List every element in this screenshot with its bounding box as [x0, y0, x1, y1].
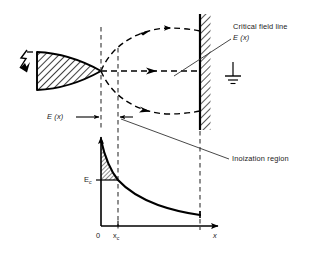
leader-ionization [121, 119, 229, 159]
schematic-svg [0, 0, 324, 256]
spark-icon [20, 50, 33, 73]
field-line-arrow-icon [146, 68, 157, 75]
point-electrode-icon [37, 52, 101, 90]
field-lines-group [101, 28, 200, 114]
label-ionization-region: Inoization region [232, 155, 289, 163]
label-field-function-left: E (x) [47, 113, 63, 121]
plane-electrode-icon [200, 14, 211, 130]
ec-subscript: c [89, 179, 92, 185]
label-origin: 0 [96, 232, 100, 240]
field-line-arrow-icon [140, 30, 151, 35]
label-critical-field-line: Critical field line [233, 23, 288, 31]
label-x-critical: xc [113, 232, 120, 240]
label-x-axis: x [213, 232, 217, 240]
construction-lines-group [101, 27, 200, 230]
field-line-arrow-icon [139, 107, 151, 113]
ground-icon [225, 62, 241, 84]
xc-subscript: c [117, 235, 120, 241]
figure-root: Critical field line E (x) Inoization reg… [0, 0, 324, 256]
label-field-function-plate: E (x) [233, 34, 249, 42]
label-critical-field-value: Ec [84, 176, 92, 184]
